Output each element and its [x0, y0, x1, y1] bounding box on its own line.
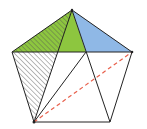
vertex-dot [33, 121, 36, 124]
hatched-region-lower [12, 52, 58, 122]
vertex-dot [71, 9, 73, 11]
pentagon-diagram [0, 0, 147, 129]
vertex-dot [131, 51, 134, 54]
